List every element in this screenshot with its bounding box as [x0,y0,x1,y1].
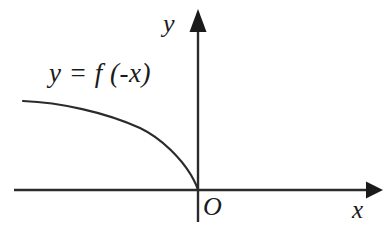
graph-canvas [0,0,391,238]
equation-label: y = f (-x) [49,60,151,87]
x-axis-label: x [352,197,363,222]
function-graph-figure: y = f (-x) y x O [0,0,391,238]
y-axis-arrowhead-icon [190,9,207,32]
x-axis-arrowhead-icon [366,182,383,199]
function-curve [23,101,198,191]
origin-label: O [203,194,222,220]
y-axis-label: y [163,11,175,37]
